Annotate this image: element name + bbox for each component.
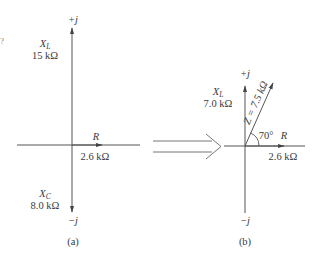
panel-a-r-label: R [93, 131, 99, 142]
panel-a-r-value: 2.6 kΩ [81, 151, 110, 162]
panel-a-xc-value: 8.0 kΩ [31, 200, 60, 211]
panel-b-r-label: R [281, 130, 287, 141]
panel-a-pos-j-label: +j [68, 14, 78, 25]
edge-fragment: ? [0, 36, 4, 46]
panel-b-xl-value: 7.0 kΩ [204, 98, 233, 109]
double-arrow-right-icon [153, 134, 221, 159]
panel-b-r-value: 2.6 kΩ [269, 151, 298, 162]
panel-b-axes [224, 83, 305, 213]
panel-b-neg-j-label: −j [240, 215, 250, 226]
panel-a-neg-j-label: −j [68, 215, 78, 226]
panel-a-caption: (a) [67, 236, 79, 247]
panel-b-caption: (b) [239, 236, 251, 247]
panel-b-angle-label: 70° [259, 130, 274, 141]
panel-a-xl-value: 15 kΩ [32, 50, 58, 61]
panel-b-pos-j-label: +j [240, 68, 250, 79]
